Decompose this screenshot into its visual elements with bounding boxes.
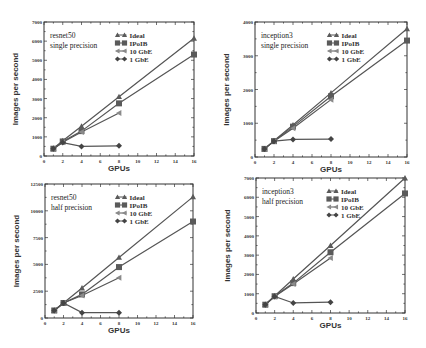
legend-label: IPoIB — [130, 40, 148, 48]
x-tick-label: 6 — [99, 159, 102, 164]
chart-grid: 0246810121416010002000300040005000600070… — [0, 0, 426, 348]
chart-panel-1: 0246810121416010002000300040005000600070… — [11, 20, 197, 173]
diamond-marker — [79, 310, 85, 316]
legend-label: Ideal — [341, 32, 356, 40]
legend-label: 1 GbE — [130, 56, 150, 64]
legend-label: 1 GbE — [341, 56, 361, 64]
x-axis-label: GPUs — [108, 326, 130, 335]
x-tick-label: 2 — [273, 316, 276, 321]
diamond-marker — [326, 212, 331, 217]
diamond-marker — [290, 136, 296, 142]
x-axis-label: GPUs — [108, 164, 130, 173]
figure: 0246810121416010002000300040005000600070… — [0, 0, 426, 348]
x-tick-label: 14 — [384, 316, 390, 321]
legend-label: 10 GbE — [341, 204, 364, 212]
square-marker — [190, 219, 196, 225]
y-tick-label: 1000 — [243, 121, 254, 126]
x-tick-label: 4 — [80, 159, 83, 164]
square-marker — [326, 196, 331, 201]
y-tick-label: 12500 — [31, 182, 44, 187]
y-tick-label: 2000 — [243, 88, 254, 93]
x-axis-label: GPUs — [320, 165, 342, 174]
x-tick-label: 0 — [43, 159, 46, 164]
y-tick-label: 3000 — [243, 54, 254, 59]
square-marker — [115, 202, 120, 207]
square-marker — [116, 100, 122, 106]
square-marker — [404, 38, 410, 44]
diamond-marker — [115, 218, 120, 223]
diamond-marker — [327, 56, 332, 61]
x-tick-label: 10 — [135, 159, 141, 164]
y-axis-label: Images per second — [11, 53, 20, 126]
x-axis-label: GPUs — [320, 321, 342, 330]
legend-label: IPoIB — [341, 40, 359, 48]
legend-label: Ideal — [130, 32, 145, 40]
triangle-left-marker — [115, 48, 120, 53]
panel-annotation: inception3 — [261, 31, 293, 40]
triangle-marker — [191, 35, 197, 40]
diamond-marker — [328, 299, 334, 305]
legend-item: Ideal — [327, 32, 357, 40]
legend-label: 10 GbE — [341, 48, 364, 56]
x-tick-label: 0 — [44, 321, 47, 326]
x-tick-label: 6 — [311, 160, 314, 165]
x-tick-label: 10 — [135, 321, 141, 326]
triangle-left-marker — [327, 48, 332, 53]
legend-item: Ideal — [115, 194, 145, 202]
diamond-marker — [122, 218, 127, 223]
legend-label: 10 GbE — [130, 48, 153, 56]
x-tick-label: 10 — [347, 316, 353, 321]
y-tick-label: 6000 — [244, 195, 255, 200]
chart-panel-3: 024681012141602500500075001000012500GPUs… — [12, 182, 196, 335]
panel-annotation: resnet50 — [50, 31, 76, 40]
diamond-marker — [290, 300, 296, 306]
triangle-left-marker — [326, 204, 331, 209]
legend-item: Ideal — [326, 188, 356, 196]
x-tick-label: 12 — [365, 316, 371, 321]
square-marker — [116, 264, 122, 270]
legend-item: 10 GbE — [326, 204, 364, 212]
square-marker — [191, 52, 197, 58]
x-tick-label: 16 — [403, 316, 409, 321]
y-tick-label: 2000 — [244, 272, 255, 277]
legend-item: IPoIB — [115, 40, 148, 48]
chart-panel-4: 0246810121416010002000300040005000600070… — [223, 175, 408, 330]
y-tick-label: 2000 — [32, 116, 43, 121]
square-marker — [328, 249, 334, 255]
legend-item: 1 GbE — [115, 218, 149, 226]
panel-annotation: inception3 — [262, 187, 294, 196]
legend-item: 1 GbE — [327, 56, 361, 64]
triangle-left-marker — [116, 275, 121, 281]
legend-item: 10 GbE — [327, 48, 365, 56]
triangle-left-marker — [116, 110, 121, 116]
panel-annotation: single precision — [261, 41, 309, 50]
square-marker — [334, 40, 339, 45]
legend-item: 1 GbE — [326, 212, 360, 220]
panel-annotation: resnet50 — [51, 193, 77, 202]
panel-annotation: half precision — [262, 197, 303, 206]
y-tick-label: 4000 — [244, 234, 255, 239]
y-tick-label: 4000 — [243, 20, 254, 25]
legend-item: Ideal — [115, 32, 145, 40]
x-tick-label: 2 — [62, 159, 65, 164]
y-axis-label: Images per second — [222, 53, 231, 126]
y-tick-label: 2500 — [33, 289, 44, 294]
x-tick-label: 14 — [386, 160, 392, 165]
diamond-marker — [116, 143, 122, 149]
triangle-marker — [404, 26, 410, 31]
legend-item: 10 GbE — [115, 48, 153, 56]
legend-label: 10 GbE — [130, 210, 153, 218]
diamond-marker — [334, 56, 339, 61]
x-tick-label: 16 — [405, 160, 411, 165]
y-tick-label: 4000 — [32, 77, 43, 82]
x-tick-label: 6 — [311, 316, 314, 321]
y-tick-label: 7000 — [32, 20, 43, 25]
diamond-marker — [333, 212, 338, 217]
legend-label: 1 GbE — [130, 218, 150, 226]
diamond-marker — [116, 310, 122, 316]
square-marker — [122, 202, 127, 207]
y-tick-label: 1000 — [244, 292, 255, 297]
square-marker — [333, 196, 338, 201]
y-tick-label: 5000 — [244, 215, 255, 220]
x-tick-label: 0 — [254, 160, 257, 165]
